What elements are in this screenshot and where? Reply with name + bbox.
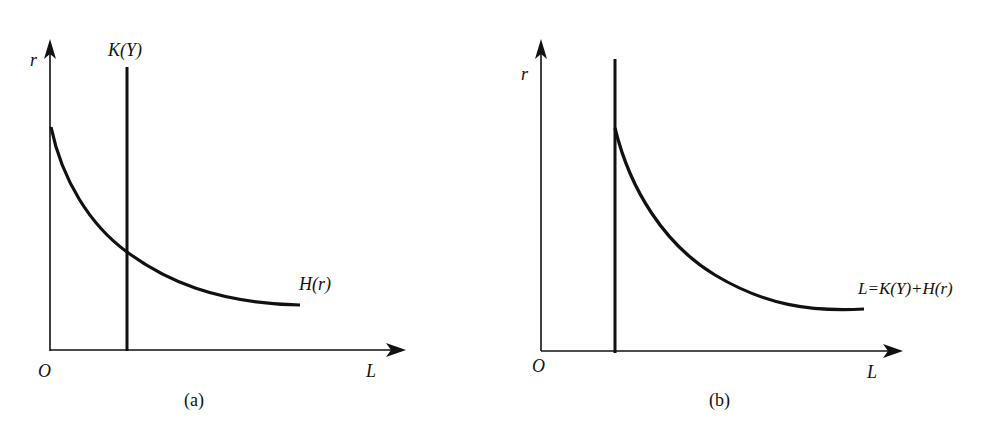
y-axis-label: r xyxy=(30,50,38,70)
caption-b: (b) xyxy=(709,390,730,411)
x-axis-label: L xyxy=(365,361,376,381)
total-demand-curve xyxy=(615,128,864,310)
hr-curve xyxy=(51,127,300,305)
origin-label: O xyxy=(532,356,545,376)
hr-label: H(r) xyxy=(298,274,331,295)
panel-b: r L=K(Y)+H(r) O L (b) xyxy=(521,39,953,411)
caption-a: (a) xyxy=(184,390,204,411)
x-axis-label: L xyxy=(866,362,877,382)
money-demand-diagram: r K(Y) H(r) O L (a) r L=K(Y)+H(r) O L (b… xyxy=(0,0,990,432)
origin-label: O xyxy=(38,361,51,381)
panel-a: r K(Y) H(r) O L (a) xyxy=(30,39,406,411)
y-axis-label: r xyxy=(521,64,529,84)
total-demand-label: L=K(Y)+H(r) xyxy=(857,279,953,298)
ky-label: K(Y) xyxy=(107,40,142,61)
